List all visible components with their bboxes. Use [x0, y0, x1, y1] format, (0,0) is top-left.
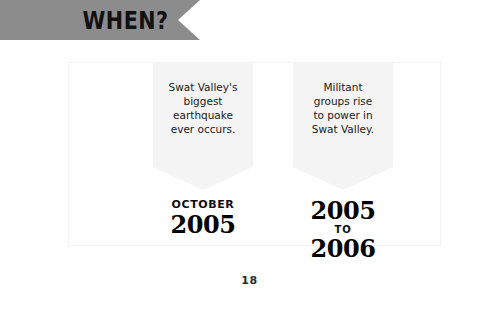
entry-1-line-2: biggest	[155, 94, 251, 108]
entry-1-date: OCTOBER 2005	[143, 198, 263, 237]
page-title: WHEN?	[14, 0, 174, 40]
timeline-entry-2: Militant groups rise to power in Swat Va…	[283, 62, 403, 261]
entry-2-body: Militant groups rise to power in Swat Va…	[295, 80, 391, 136]
section-header-ribbon: WHEN?	[0, 0, 200, 40]
page-number: 18	[0, 274, 499, 287]
page-canvas: WHEN? Swat Valley's biggest earthquake e…	[0, 0, 499, 310]
entry-1-line-4: ever occurs.	[155, 122, 251, 136]
entry-2-date-year-start: 2005	[283, 198, 403, 223]
entry-1-body: Swat Valley's biggest earthquake ever oc…	[155, 80, 251, 136]
entry-1-line-1: Swat Valley's	[155, 80, 251, 94]
entry-2-line-1: Militant	[295, 80, 391, 94]
entry-1-date-year: 2005	[143, 212, 263, 237]
pennant-shape-1: Swat Valley's biggest earthquake ever oc…	[153, 62, 253, 190]
timeline-columns: Swat Valley's biggest earthquake ever oc…	[68, 62, 441, 262]
timeline-entry-1: Swat Valley's biggest earthquake ever oc…	[143, 62, 263, 237]
entry-2-line-3: to power in	[295, 108, 391, 122]
entry-2-date: 2005 TO 2006	[283, 198, 403, 261]
entry-2-line-4: Swat Valley.	[295, 122, 391, 136]
entry-2-date-year-end: 2006	[283, 236, 403, 261]
pennant-shape-2: Militant groups rise to power in Swat Va…	[293, 62, 393, 190]
entry-1-line-3: earthquake	[155, 108, 251, 122]
entry-2-line-2: groups rise	[295, 94, 391, 108]
